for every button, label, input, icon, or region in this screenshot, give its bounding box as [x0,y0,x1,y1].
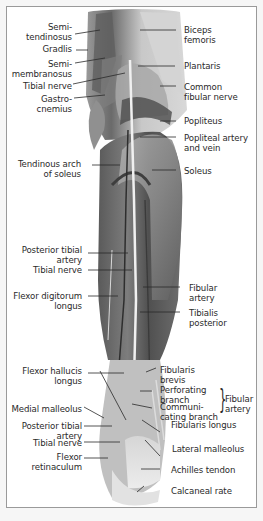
label-posterior-tibial-artery-upper: Posterior tibial artery [22,245,82,265]
label-tibial-nerve-upper: Tibial nerve [23,81,72,91]
label-fibularis-brevis: Fibularis brevis [160,365,195,385]
label-fibular-artery-group: Fibular artery [225,394,253,414]
label-tibialis-posterior: Tibialis posterior [189,308,227,328]
label-calcaneal-rate: Calcaneal rate [171,486,232,496]
label-flexor-digitorum-longus: Flexor digitorum longus [13,291,82,311]
label-popliteus: Popliteus [184,116,222,126]
label-biceps-femoris: Biceps femoris [184,25,216,45]
label-popliteal-artery-vein: Popliteal artery and vein [184,133,248,153]
label-tendinous-arch-soleus: Tendinous arch of soleus [18,159,81,179]
label-soleus: Soleus [184,166,212,176]
label-achilles-tendon: Achilles tendon [171,465,235,475]
label-medial-malleolus: Medial malleolus [11,404,82,414]
label-flexor-retinaculum: Flexor retinaculum [32,452,82,472]
label-semitendinosus: Semi- tendinosus [26,22,72,42]
label-plantaris: Plantaris [184,61,220,71]
achilles-tendon-shape [125,436,160,488]
label-fibularis-longus: Fibularis longus [171,420,236,430]
label-gastrocnemius: Gastro- cnemius [37,94,72,114]
label-gracilis: Gradlis [43,44,72,54]
label-common-fibular-nerve: Common fibular nerve [184,82,238,102]
label-communicating-branch: Communi- cating branch [160,402,218,422]
label-tibial-nerve-lower: Tibial nerve [33,438,82,448]
label-semimembranosus: Semi- membranosus [12,59,72,79]
label-fibular-artery: Fibular artery [189,283,217,303]
label-lateral-malleolus: Lateral malleolus [172,444,244,454]
label-tibial-nerve-middle: Tibial nerve [33,265,82,275]
label-flexor-hallucis-longus: Flexor hallucis longus [22,366,82,386]
